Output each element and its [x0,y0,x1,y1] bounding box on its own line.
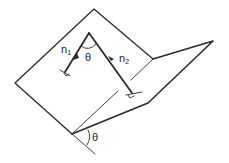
left-plane [15,9,153,134]
label-n2-sub: 2 [125,58,129,65]
fold-line-upper [131,59,153,80]
n2-base-tick [126,92,142,95]
fold-line-lower [72,91,118,134]
dihedral-angle-arc [87,130,90,145]
normal-angle-arc [81,44,96,49]
label-theta-normals: θ [85,52,91,63]
n2-right-angle-marker [128,95,134,98]
label-theta-dihedral: θ [92,132,98,143]
label-n1: n1 [61,44,71,56]
label-n2: n2 [119,53,129,65]
right-plane [72,41,213,134]
dihedral-angle-diagram: n1 n2 θ θ [0,0,229,163]
label-n1-sub: 1 [67,49,71,56]
diagram-svg [0,0,229,163]
